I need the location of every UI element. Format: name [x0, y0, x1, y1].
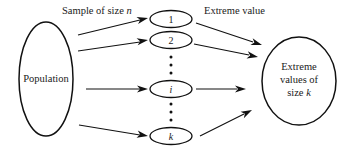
extreme-values-node: Extreme values of size k [262, 37, 336, 125]
sample-1-label: 1 [169, 14, 174, 25]
sample-i-label: i [170, 84, 173, 95]
population-node: Population [19, 22, 73, 136]
sample-2-label: 2 [169, 35, 174, 46]
extraction-arrow-4 [200, 107, 254, 136]
sample-node-k: k [150, 128, 192, 145]
extraction-arrows [194, 23, 263, 136]
extreme-values-line2: values of [280, 74, 319, 85]
sampling-arrow-2 [78, 36, 149, 51]
extraction-arrow-2 [194, 44, 259, 61]
extreme-value-diagram: Population 1 [0, 0, 341, 151]
extreme-caption: Extreme value [204, 5, 265, 16]
sample-node-i: i [150, 81, 192, 98]
extraction-arrow-1 [196, 23, 263, 48]
sample-caption-text: Sample of size [62, 5, 124, 16]
sample-node-2: 2 [150, 32, 192, 49]
sampling-arrow-4 [79, 125, 149, 140]
ellipsis-upper [170, 56, 173, 75]
extreme-values-line3-prefix: size [287, 87, 304, 98]
population-label: Population [23, 73, 69, 84]
sample-caption: Sample of size n [62, 5, 132, 16]
sampling-arrow-1 [78, 14, 149, 35]
extreme-values-line1: Extreme [281, 61, 317, 72]
svg-text:Sample of size n: Sample of size n [62, 5, 132, 16]
ellipsis-lower [170, 103, 173, 122]
extreme-values-line3: size k [287, 87, 311, 98]
extreme-caption-text: Extreme value [204, 5, 265, 16]
sample-caption-var: n [126, 5, 131, 16]
extraction-arrow-3 [196, 85, 246, 92]
sample-k-label: k [169, 131, 174, 142]
extreme-values-line3-var: k [306, 87, 311, 98]
sample-node-1: 1 [150, 11, 192, 28]
sampling-arrow-3 [86, 85, 148, 92]
sampling-arrows [78, 14, 149, 139]
